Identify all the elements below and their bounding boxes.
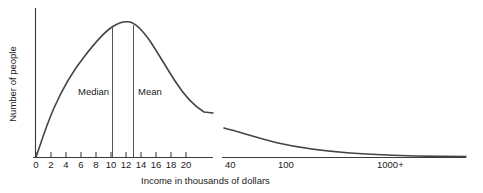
tick-label-1000: 1000+: [377, 159, 404, 170]
chart-canvas: Number of people 0 2 4 6 8 10 12 14: [0, 0, 483, 193]
tick-label-18: 18: [166, 159, 177, 170]
tick-label-16: 16: [151, 159, 162, 170]
median-label: Median: [78, 86, 109, 97]
tick-label-14: 14: [136, 159, 147, 170]
tick-label-4: 4: [63, 159, 68, 170]
tick-label-8: 8: [93, 159, 98, 170]
mean-label: Mean: [138, 86, 162, 97]
tick-label-20: 20: [181, 159, 192, 170]
distribution-curve-right-tail: [224, 128, 466, 157]
x-axis-title: Income in thousands of dollars: [141, 175, 270, 186]
tick-label-0: 0: [33, 159, 38, 170]
y-axis-title: Number of people: [7, 46, 18, 122]
tick-label-100: 100: [278, 159, 294, 170]
tick-label-2: 2: [48, 159, 53, 170]
x-axis-ticks-left: [36, 152, 186, 158]
tick-label-6: 6: [78, 159, 83, 170]
distribution-curve-left: [36, 22, 213, 157]
tick-label-10: 10: [106, 159, 117, 170]
income-distribution-chart: Number of people 0 2 4 6 8 10 12 14: [0, 0, 483, 193]
tick-label-40: 40: [225, 159, 236, 170]
x-axis-tick-labels-left: 0 2 4 6 8 10 12 14 16 18 20: [33, 159, 191, 170]
x-axis-tick-labels-right: 40 100 1000+: [225, 159, 404, 170]
tick-label-12: 12: [121, 159, 132, 170]
